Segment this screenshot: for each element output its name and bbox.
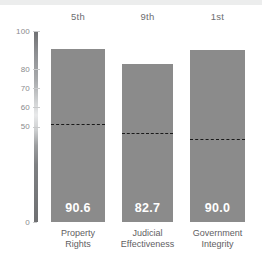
y-tick-label-60: 60 bbox=[6, 103, 30, 112]
y-tick-mark-100 bbox=[33, 31, 40, 32]
category-label-government-integrity: Government Integrity bbox=[176, 228, 259, 250]
category-label-line-1: Government bbox=[176, 228, 259, 239]
bar-government-integrity[interactable] bbox=[190, 50, 245, 222]
bar-property-rights[interactable] bbox=[51, 49, 105, 222]
y-tick-label-50: 50 bbox=[6, 122, 30, 131]
y-tick-label-0: 0 bbox=[6, 218, 30, 227]
plot-area: 100 80 70 60 50 0 90.6 82.7 90.0 Propert… bbox=[0, 0, 262, 261]
y-tick-label-80: 80 bbox=[6, 65, 30, 74]
category-label-line-2: Rights bbox=[37, 239, 119, 250]
reference-line-judicial-effectiveness bbox=[122, 133, 173, 134]
reference-line-government-integrity bbox=[190, 139, 245, 140]
category-label-property-rights: Property Rights bbox=[37, 228, 119, 250]
y-tick-mark-60 bbox=[33, 107, 40, 108]
bar-value-property-rights: 90.6 bbox=[51, 201, 105, 215]
y-tick-mark-50 bbox=[33, 127, 40, 128]
reference-line-property-rights bbox=[51, 124, 105, 125]
bar-value-government-integrity: 90.0 bbox=[190, 201, 245, 215]
chart-root: 5th 9th 1st 100 80 70 60 50 0 90.6 82.7 … bbox=[0, 0, 262, 261]
y-tick-label-100: 100 bbox=[6, 27, 30, 36]
bar-judicial-effectiveness[interactable] bbox=[122, 64, 173, 222]
y-tick-mark-80 bbox=[33, 69, 40, 70]
category-label-line-2: Integrity bbox=[176, 239, 259, 250]
bar-value-judicial-effectiveness: 82.7 bbox=[122, 201, 173, 215]
category-label-line-1: Property bbox=[37, 228, 119, 239]
y-tick-mark-70 bbox=[33, 88, 40, 89]
y-tick-mark-0 bbox=[33, 222, 37, 223]
y-tick-label-70: 70 bbox=[6, 84, 30, 93]
